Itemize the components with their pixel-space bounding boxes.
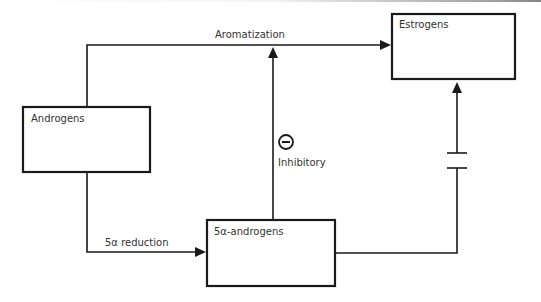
pathway-diagram: Aromatization 5α reduction Inhibitory An… — [0, 0, 541, 302]
inhibitory-label: Inhibitory — [278, 157, 326, 168]
edge-inhibitory: Inhibitory — [268, 47, 326, 220]
arrowhead-icon — [452, 82, 462, 93]
edge-blocked — [335, 82, 467, 253]
androgens-label: Androgens — [31, 113, 85, 124]
node-androgens: Androgens — [23, 107, 150, 172]
arrowhead-icon — [268, 47, 278, 58]
edge-aromatization: Aromatization — [87, 29, 391, 107]
node-5a-androgens: 5α-androgens — [207, 220, 335, 286]
node-estrogens: Estrogens — [392, 14, 515, 79]
aromatization-label: Aromatization — [215, 29, 285, 40]
arrowhead-icon — [195, 247, 206, 257]
estrogens-label: Estrogens — [399, 19, 449, 30]
5a-reduction-label: 5α reduction — [105, 237, 169, 248]
arrowhead-icon — [380, 40, 391, 50]
5a-androgens-label: 5α-androgens — [214, 226, 283, 237]
edge-5a-reduction: 5α reduction — [87, 172, 206, 257]
minus-circle-icon — [279, 135, 293, 149]
